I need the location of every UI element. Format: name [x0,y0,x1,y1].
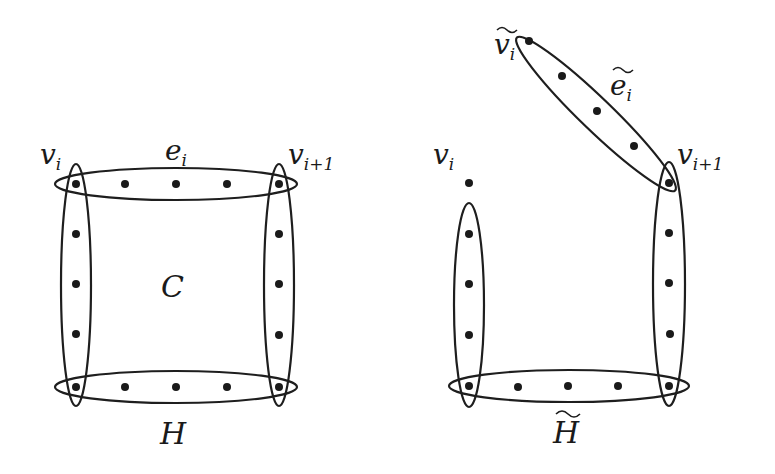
label-v-i-right: vi [433,138,454,174]
vertex [665,229,673,237]
label-v-i-plus-1-right: vi+1 [677,138,723,174]
vertex [172,180,180,188]
vertex [593,107,601,115]
vertex [275,230,283,238]
label-e-i: ei [165,134,187,170]
vertex [275,180,283,188]
vertex [275,331,283,339]
vertex [72,180,80,188]
left-hypergraph-H: vi ei vi+1 C H [40,134,334,451]
vertex [614,382,622,390]
vertex [223,383,231,391]
vertex [665,179,673,187]
vertex [558,72,566,80]
vertex [275,280,283,288]
vertex [72,330,80,338]
vertex [465,230,473,238]
svg-text:ei: ei [610,69,632,105]
label-v-i-left: vi [40,138,61,174]
vertex [666,330,674,338]
vertex [564,382,572,390]
label-e-i-tilde: ei [610,68,633,106]
right-hypergraph-H-tilde: vi ei vi vi+1 H [433,26,723,450]
label-cycle-C: C [161,269,184,304]
label-v-i-plus-1-left: vi+1 [288,138,334,174]
vertex [72,280,80,288]
vertex [665,382,673,390]
vertex [465,179,473,187]
vertex [121,383,129,391]
vertex [121,180,129,188]
vertex [665,279,673,287]
vertex [172,383,180,391]
vertex [525,37,533,45]
label-H-tilde: H [552,411,580,450]
svg-text:vi: vi [494,28,515,64]
vertex [465,331,473,339]
vertex [465,382,473,390]
vertex [72,230,80,238]
vertices-right [465,37,674,391]
vertex [630,142,638,150]
vertex [514,383,522,391]
label-H: H [159,416,187,451]
vertex [223,180,231,188]
vertex [465,280,473,288]
label-v-i-tilde: vi [494,28,517,65]
vertex [275,383,283,391]
hypergraph-figure: vi ei vi+1 C H [0,0,775,474]
vertex [72,383,80,391]
svg-text:H: H [552,415,580,450]
